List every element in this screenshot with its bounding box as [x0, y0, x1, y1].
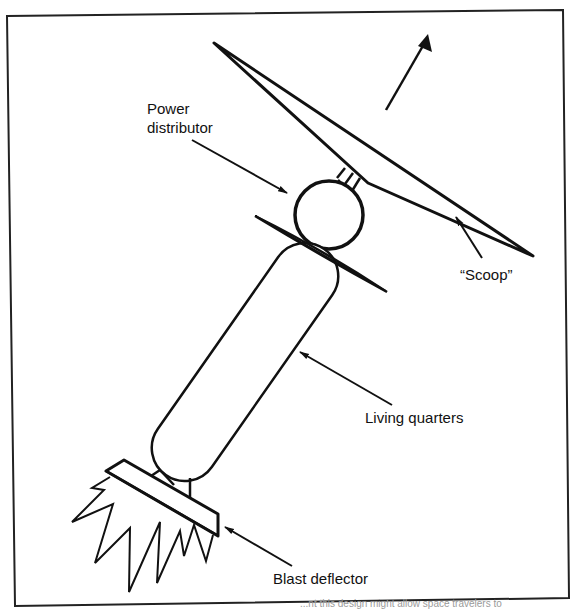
label-scoop: “Scoop” — [460, 265, 513, 284]
power-distributor-leader — [192, 140, 287, 193]
label-blast-deflector: Blast deflector — [273, 569, 368, 588]
living-quarters-leader — [300, 352, 392, 405]
direction-arrow-icon — [386, 34, 432, 110]
power-distributor-shape — [295, 181, 363, 249]
spacecraft-diagram: Power distributor “Scoop” Living quarter… — [0, 0, 576, 609]
label-living-quarters: Living quarters — [365, 408, 463, 427]
exhaust-flames-shape — [72, 477, 213, 592]
blast-deflector-leader — [225, 527, 292, 566]
scoop-leader — [456, 217, 482, 258]
label-distributor: distributor — [147, 118, 213, 137]
label-power: Power — [147, 99, 190, 118]
diagram-drawing — [0, 0, 576, 609]
figure-caption-fragment: ...nt this design might allow space trav… — [300, 598, 570, 609]
scoop-shape — [214, 43, 533, 256]
